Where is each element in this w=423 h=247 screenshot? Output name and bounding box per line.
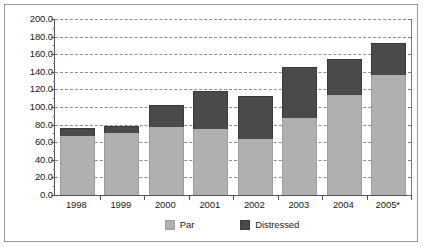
bar-group <box>189 19 234 195</box>
legend-item[interactable]: Distressed <box>240 220 299 230</box>
y-axis-tick-label: 100.0 <box>30 102 53 112</box>
x-axis-tick-label: 1999 <box>99 197 144 213</box>
y-axis-tick-label: 200.0 <box>30 14 53 24</box>
y-axis-labels: 200.0180.0160.0140.0120.0100.080.060.040… <box>11 19 53 195</box>
stacked-bar[interactable] <box>282 67 317 195</box>
y-axis-tick-mark <box>51 195 55 196</box>
x-axis-tick-label: 2003 <box>277 197 322 213</box>
bar-segment-distressed[interactable] <box>238 96 273 139</box>
bar-segment-par[interactable] <box>238 139 273 195</box>
stacked-bar[interactable] <box>60 128 95 195</box>
legend-item-label: Par <box>180 220 194 230</box>
stacked-bar[interactable] <box>193 91 228 195</box>
x-axis-tick-mark <box>411 195 412 200</box>
bar-segment-par[interactable] <box>282 118 317 195</box>
y-axis-tick-label: 140.0 <box>30 67 53 77</box>
x-axis-tick-label: 2005* <box>366 197 411 213</box>
chart-frame: 200.0180.0160.0140.0120.0100.080.060.040… <box>4 4 418 242</box>
bar-group <box>55 19 100 195</box>
x-axis-tick-label: 2004 <box>321 197 366 213</box>
bar-group <box>278 19 323 195</box>
x-axis-tick-label: 2002 <box>232 197 277 213</box>
bar-group <box>233 19 278 195</box>
x-axis-tick-label: 2001 <box>188 197 233 213</box>
plot-area <box>54 19 411 196</box>
stacked-bar[interactable] <box>104 126 139 195</box>
y-axis-tick-label: 120.0 <box>30 84 53 94</box>
bar-segment-par[interactable] <box>371 75 406 195</box>
legend-swatch-icon <box>240 220 250 230</box>
bar-segment-distressed[interactable] <box>193 91 228 129</box>
bar-segment-par[interactable] <box>193 129 228 195</box>
stacked-bar[interactable] <box>238 96 273 195</box>
y-axis-tick-label: 180.0 <box>30 32 53 42</box>
stacked-bar[interactable] <box>371 43 406 195</box>
bar-group <box>322 19 367 195</box>
stacked-bar[interactable] <box>149 105 184 195</box>
x-axis-tick-label: 1998 <box>54 197 99 213</box>
bar-segment-distressed[interactable] <box>60 128 95 136</box>
stacked-bar[interactable] <box>327 59 362 195</box>
bar-segment-par[interactable] <box>327 95 362 195</box>
legend-item-label: Distressed <box>255 220 299 230</box>
bar-segment-distressed[interactable] <box>371 43 406 76</box>
bar-segment-par[interactable] <box>60 136 95 195</box>
chart-legend: ParDistressed <box>54 217 410 233</box>
bar-segment-distressed[interactable] <box>149 105 184 127</box>
bar-segment-distressed[interactable] <box>104 126 139 133</box>
bar-segment-distressed[interactable] <box>282 67 317 118</box>
x-axis-tick-label: 2000 <box>143 197 188 213</box>
bar-segment-distressed[interactable] <box>327 59 362 95</box>
bar-segment-par[interactable] <box>104 133 139 195</box>
y-axis-tick-label: 160.0 <box>30 49 53 59</box>
legend-item[interactable]: Par <box>165 220 194 230</box>
bar-group <box>100 19 145 195</box>
x-axis-labels: 19981999200020012002200320042005* <box>54 197 410 213</box>
legend-swatch-icon <box>165 220 175 230</box>
chart-plot-wrapper: 200.0180.0160.0140.0120.0100.080.060.040… <box>5 5 417 241</box>
bar-series-layer <box>55 19 411 195</box>
bar-group <box>367 19 412 195</box>
bar-group <box>144 19 189 195</box>
bar-segment-par[interactable] <box>149 127 184 195</box>
